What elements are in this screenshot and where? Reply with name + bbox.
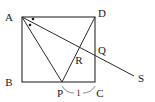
measure-brace-right: [83, 86, 95, 93]
geometry-canvas: A B C D P Q R S 1: [0, 0, 155, 102]
vertex-label-q: Q: [98, 44, 106, 56]
measure-brace-left: [62, 86, 74, 93]
angle-dot-icon-1: [32, 18, 35, 21]
measure-label-pc: 1: [76, 88, 81, 98]
geometry-diagram: A B C D P Q R S 1: [0, 0, 155, 102]
vertex-label-b: B: [5, 76, 12, 88]
vertex-label-p: P: [57, 87, 63, 99]
vertex-label-a: A: [5, 11, 13, 23]
vertex-label-r: R: [75, 54, 83, 66]
angle-dot-icon-2: [29, 24, 32, 27]
segment-as: [22, 17, 134, 76]
segment-dp: [62, 17, 95, 82]
vertex-label-c: C: [96, 87, 103, 99]
vertex-label-s: S: [138, 72, 144, 84]
segment-ap: [22, 17, 62, 82]
vertex-label-d: D: [98, 7, 106, 19]
